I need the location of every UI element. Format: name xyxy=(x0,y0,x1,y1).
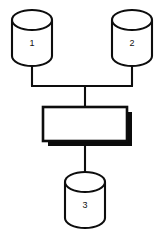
node-db3[interactable]: 3 xyxy=(65,172,105,228)
process-box-icon[interactable] xyxy=(43,107,127,141)
node-label-db3: 3 xyxy=(82,200,87,210)
node-db2[interactable]: 2 xyxy=(112,10,152,66)
diagram-svg: 1 2 3 xyxy=(0,0,163,237)
database-cylinder-icon-3-top xyxy=(65,172,105,192)
node-label-db1: 1 xyxy=(29,38,34,48)
node-label-db2: 2 xyxy=(129,38,134,48)
database-cylinder-icon-2-top xyxy=(112,10,152,30)
database-cylinder-icon-1-top xyxy=(12,10,52,30)
process-node[interactable] xyxy=(43,107,132,146)
diagram-canvas: 1 2 3 xyxy=(0,0,163,237)
node-db1[interactable]: 1 xyxy=(12,10,52,66)
